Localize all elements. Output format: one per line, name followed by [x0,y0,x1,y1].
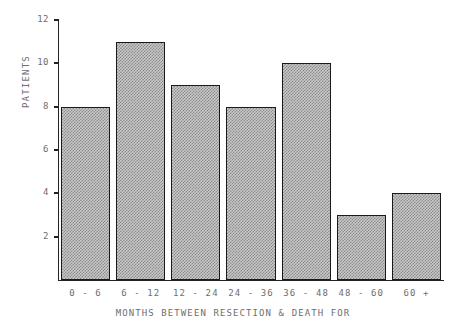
bar [116,42,165,280]
y-axis-tick-label: 4 [23,188,49,197]
bar [392,193,441,280]
x-axis-tick-label: 24 - 36 [223,288,278,298]
bar [171,85,220,280]
x-axis-tick-label: 6 - 12 [113,288,168,298]
x-axis-title: MONTHS BETWEEN RESECTION & DEATH FOR [0,308,466,318]
bar [61,107,110,280]
x-axis-tick-label: 0 - 6 [58,288,113,298]
x-axis-tick-label: 36 - 48 [279,288,334,298]
bar [226,107,275,280]
x-axis-tick-label: 48 - 60 [334,288,389,298]
bar-chart: PATIENTS 24681012 0 - 66 - 1212 - 2424 -… [0,0,466,324]
x-axis-tick-label: 60 + [389,288,444,298]
y-axis-tick-label: 12 [23,15,49,24]
plot-area [58,20,444,280]
y-axis-tick-label: 10 [23,58,49,67]
bar [337,215,386,280]
y-axis-tick-label: 2 [23,232,49,241]
x-axis-line [58,280,444,281]
y-axis-tick-label: 8 [23,102,49,111]
y-axis-tick-label: 6 [23,145,49,154]
x-axis-tick-label: 12 - 24 [168,288,223,298]
bar [282,63,331,280]
